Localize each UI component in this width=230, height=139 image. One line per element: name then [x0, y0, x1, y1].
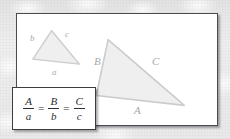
fraction-A-over-a: A a	[23, 95, 34, 122]
proportion-formula: A a = B b = C c	[23, 95, 85, 122]
fraction-denominator-b: b	[49, 110, 59, 122]
large-triangle-shape	[96, 40, 184, 106]
large-triangle-label-A: A	[134, 105, 141, 116]
fraction-C-over-c: C c	[74, 95, 85, 122]
fraction-bar	[48, 108, 59, 109]
large-triangle-label-B: B	[94, 56, 101, 67]
formula-callout: A a = B b = C c	[12, 87, 96, 130]
fraction-denominator-a: a	[24, 110, 34, 122]
fraction-B-over-b: B b	[48, 95, 59, 122]
small-triangle-label-b: b	[30, 34, 35, 43]
large-triangle-label-C: C	[152, 56, 159, 67]
figure-stage: b c a B C A A a = B b = C c	[0, 0, 230, 139]
fraction-numerator-A: A	[23, 95, 34, 107]
fraction-denominator-c: c	[75, 110, 84, 122]
equals-sign-2: =	[63, 102, 69, 115]
fraction-numerator-B: B	[48, 95, 59, 107]
small-triangle-shape	[33, 31, 80, 64]
small-triangle-label-a: a	[52, 68, 57, 77]
small-triangle-label-c: c	[65, 30, 69, 39]
equals-sign-1: =	[38, 102, 44, 115]
fraction-bar	[74, 108, 85, 109]
fraction-bar	[23, 108, 34, 109]
fraction-numerator-C: C	[74, 95, 85, 107]
